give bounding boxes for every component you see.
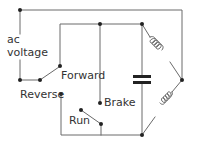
label-run: Run [69,115,90,127]
label-ac: ac [7,34,20,46]
label-reverse: Reverse [20,89,64,101]
label-brake: Brake [104,97,136,109]
winding-2-coil [160,92,173,105]
junction-dot [180,78,184,82]
switch-pivot-dot [38,78,42,82]
junction-dot [140,22,144,26]
junction-dot [140,133,144,137]
winding-1-lead-b [170,62,182,80]
run-pivot-dot [99,122,103,126]
forward-contact-dot [58,64,62,68]
capacitor-plate-bottom [133,81,151,84]
junction-dot [18,78,22,82]
winding-2-lead-b [142,117,155,135]
run-contact-dot [79,108,83,112]
winding-2-lead-a [172,80,182,92]
label-forward: Forward [61,70,105,82]
wire-forward [60,24,142,66]
direction-switch-blade [40,67,59,80]
capacitor-plate-top [133,75,151,78]
winding-1-lead-a [142,24,150,37]
winding-1-coil [150,36,163,50]
junction-dot [98,22,102,26]
brake-contact-dot [98,101,102,105]
label-voltage: voltage [7,47,48,59]
junction-dot [18,8,22,12]
